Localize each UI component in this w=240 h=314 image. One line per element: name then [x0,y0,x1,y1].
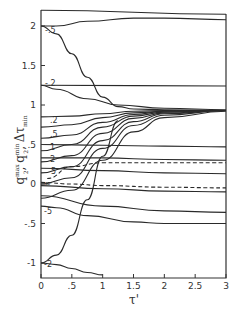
curve-label: 5 [51,167,56,176]
y-tick-label: 2 [30,21,36,31]
y-tick-label: 0 [30,179,36,189]
x-tick-label: 2.5 [188,281,202,291]
curve-label: -5 [44,207,52,216]
x-axis-label: τ' [129,293,139,307]
curve [41,111,226,162]
x-tick-label: 1 [100,281,106,291]
curve-label: 2 [50,155,55,164]
curve [41,111,226,173]
curve-label: -.2 [45,79,56,88]
x-tick-label: 1.5 [126,281,140,291]
curve-label: -2 [44,260,52,269]
curve [41,26,226,111]
curve [47,163,226,179]
y-axis-label: qmax2, qmin2, Δτmin [13,115,29,184]
curve-label: .5 [50,130,58,139]
chart: 0.511.522.53 -1-.50.511.52 -.5-.2.2.5125… [0,0,240,314]
curve-label: .2 [50,116,58,125]
curve [41,18,226,26]
svg-text:qmax2, qmin2, Δτmin: qmax2, qmin2, Δτmin [13,115,29,184]
x-tick-label: 2 [161,281,167,291]
y-tick-label: -.5 [24,219,36,229]
y-tick-label: 1 [30,100,36,110]
x-axis-ticks: 0.511.522.53 [38,274,229,291]
axes-box [41,10,226,278]
plot-frame [41,10,226,278]
curve-label: -.5 [45,26,56,35]
curve-label: 1 [50,143,55,152]
y-tick-label: -1 [27,258,36,268]
y-tick-label: 1.5 [22,61,36,71]
curve [41,168,226,174]
y-tick-label: .5 [27,140,36,150]
curve [41,85,226,109]
plot-curves [41,10,226,275]
x-tick-label: 0 [38,281,44,291]
curve [41,10,226,14]
curve [41,158,226,160]
x-tick-label: .5 [68,281,77,291]
curve [41,145,226,147]
x-tick-label: 3 [223,281,229,291]
curve [41,85,226,86]
curve-label: ∞ [44,179,51,188]
